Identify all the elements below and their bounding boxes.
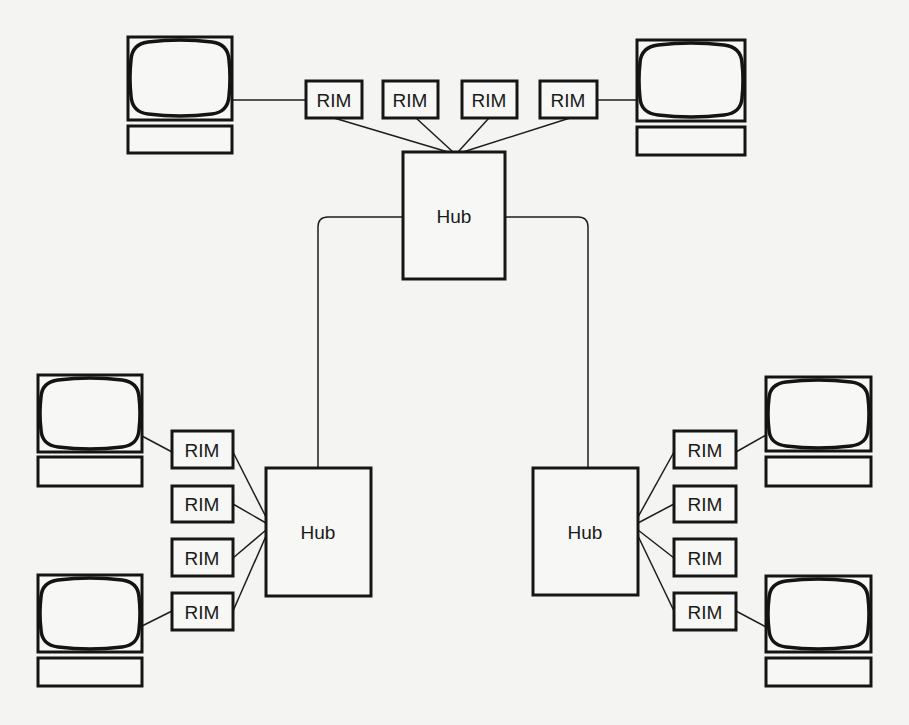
- rim-label: RIM: [185, 548, 220, 569]
- rim-left-2: RIM: [172, 486, 233, 522]
- rim-label: RIM: [317, 90, 352, 111]
- monitor-icon: [766, 377, 871, 451]
- rim-label: RIM: [185, 494, 220, 515]
- rim-label: RIM: [688, 494, 723, 515]
- hub-label: Hub: [568, 522, 603, 543]
- monitor-icon: [637, 40, 745, 121]
- rim-label: RIM: [551, 90, 586, 111]
- monitor-icon: [128, 37, 232, 120]
- keyboard-icon: [128, 126, 232, 153]
- rim-left-3: RIM: [172, 539, 233, 576]
- rim-label: RIM: [185, 440, 220, 461]
- rim-top-3: RIM: [462, 81, 517, 118]
- hub-left: Hub: [266, 468, 371, 596]
- terminal-left-upper: [38, 375, 142, 486]
- keyboard-icon: [766, 658, 871, 686]
- keyboard-icon: [38, 457, 142, 486]
- network-diagram: Hub Hub Hub RIM RIM RIM RIM: [0, 0, 909, 725]
- rim-top-4: RIM: [540, 81, 597, 118]
- rim-right-4: RIM: [674, 593, 736, 630]
- rim-right-2: RIM: [674, 486, 736, 522]
- rim-left-4: RIM: [172, 593, 233, 630]
- rim-right-1: RIM: [674, 431, 736, 468]
- hub-label: Hub: [301, 522, 336, 543]
- hub-label: Hub: [437, 206, 472, 227]
- monitor-icon: [766, 576, 871, 652]
- keyboard-icon: [637, 127, 745, 155]
- keyboard-icon: [38, 658, 142, 686]
- diagram-canvas: Hub Hub Hub RIM RIM RIM RIM: [0, 0, 909, 725]
- terminal-left-lower: [38, 575, 142, 686]
- hub-right: Hub: [533, 468, 638, 595]
- rim-label: RIM: [688, 602, 723, 623]
- keyboard-icon: [766, 457, 871, 486]
- rim-top-2: RIM: [383, 81, 438, 118]
- terminal-top-right: [637, 40, 745, 155]
- monitor-icon: [38, 575, 142, 652]
- rim-label: RIM: [688, 440, 723, 461]
- rim-top-1: RIM: [306, 81, 362, 118]
- terminal-top-left: [128, 37, 232, 153]
- rim-left-1: RIM: [172, 431, 233, 468]
- rim-label: RIM: [185, 602, 220, 623]
- terminal-right-lower: [766, 576, 871, 686]
- terminal-right-upper: [766, 377, 871, 486]
- monitor-icon: [38, 375, 142, 452]
- rim-right-3: RIM: [674, 539, 736, 576]
- rim-label: RIM: [472, 90, 507, 111]
- hub-top: Hub: [403, 152, 505, 279]
- rim-label: RIM: [688, 548, 723, 569]
- rim-label: RIM: [393, 90, 428, 111]
